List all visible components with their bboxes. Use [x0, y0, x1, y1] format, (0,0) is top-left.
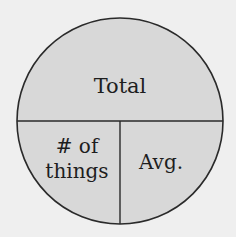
count-label-line1: # of [56, 134, 100, 158]
average-label: Avg. [138, 150, 183, 174]
average-formula-circle: Total # of things Avg. [0, 0, 236, 237]
total-label: Total [94, 74, 147, 98]
count-label-line2: things [45, 159, 108, 183]
